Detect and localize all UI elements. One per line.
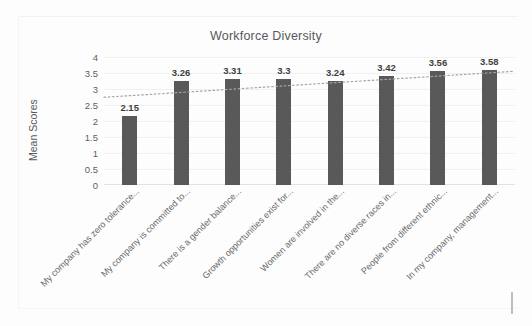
y-axis-tick-label: 1 — [68, 148, 98, 159]
bar[interactable]: 3.26 — [174, 81, 189, 185]
bar-slot: 3.3 — [258, 57, 309, 185]
figure-border-bottom — [18, 308, 518, 309]
y-axis-tick-label: 3.5 — [68, 68, 98, 79]
chart-title: Workforce Diversity — [0, 29, 532, 43]
y-axis-tick-label: 3 — [68, 84, 98, 95]
bar-value-label: 3.58 — [480, 56, 499, 67]
x-axis-category-label: In my company, management... — [405, 186, 501, 282]
chart-figure: Workforce Diversity Mean Scores 00.511.5… — [0, 0, 532, 326]
bar[interactable]: 3.24 — [328, 81, 343, 185]
y-axis-tick-label: 1.5 — [68, 132, 98, 143]
y-axis-tick-label: 2.5 — [68, 100, 98, 111]
plot-area: 00.511.522.533.54 2.153.263.313.33.243.4… — [104, 57, 515, 185]
bar[interactable]: 2.15 — [122, 116, 137, 185]
bar[interactable]: 3.31 — [225, 79, 240, 185]
bar[interactable]: 3.3 — [276, 79, 291, 185]
bar-value-label: 2.15 — [120, 102, 139, 113]
y-axis-tick-label: 2 — [68, 116, 98, 127]
x-axis-category-label: People from different ethnic... — [359, 186, 449, 276]
bar-series: 2.153.263.313.33.243.423.563.58 — [104, 57, 515, 185]
bar-slot: 3.42 — [361, 57, 412, 185]
bar[interactable]: 3.42 — [379, 76, 394, 185]
figure-border-left — [18, 16, 19, 308]
bar-slot: 2.15 — [104, 57, 155, 185]
x-axis-category-label: Women are involved in the... — [259, 186, 347, 274]
figure-border-top — [18, 16, 518, 17]
x-axis-category-label: Growth opportunities exist for... — [200, 186, 295, 281]
bar-value-label: 3.31 — [223, 65, 242, 76]
x-axis-category-label: My company has zero tolerance... — [38, 186, 141, 289]
bar-value-label: 3.24 — [326, 67, 345, 78]
y-axis-tick-label: 0 — [68, 180, 98, 191]
bar[interactable]: 3.58 — [482, 70, 497, 185]
x-axis-category-label: There are no diverse races in... — [302, 186, 397, 281]
bar-value-label: 3.26 — [172, 67, 191, 78]
y-axis-title: Mean Scores — [24, 84, 42, 176]
x-axis-category-label: My company is committed to... — [99, 186, 192, 279]
bar-value-label: 3.42 — [377, 62, 396, 73]
bar-slot: 3.31 — [207, 57, 258, 185]
bar-slot: 3.58 — [464, 57, 515, 185]
bar-slot: 3.56 — [412, 57, 463, 185]
bar-value-label: 3.56 — [429, 57, 448, 68]
x-axis-category-labels: My company has zero tolerance...My compa… — [104, 186, 515, 298]
y-axis-tick-label: 0.5 — [68, 164, 98, 175]
bar[interactable]: 3.56 — [430, 71, 445, 185]
bar-value-label: 3.3 — [277, 65, 290, 76]
y-axis-tick-label: 4 — [68, 52, 98, 63]
bar-slot: 3.24 — [310, 57, 361, 185]
bar-slot: 3.26 — [155, 57, 206, 185]
